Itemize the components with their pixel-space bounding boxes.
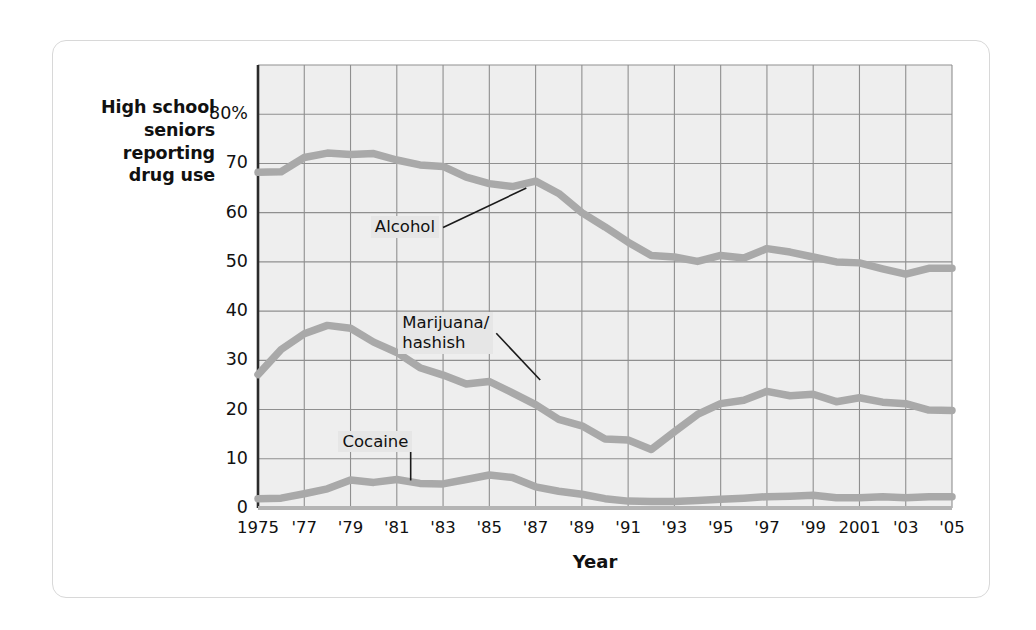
x-tick-label-2003: '03 [893, 518, 919, 537]
y-tick-label-30: 30 [190, 349, 248, 369]
x-tick-label-1995: '95 [708, 518, 734, 537]
x-tick-label-1993: '93 [662, 518, 688, 537]
x-tick-label-1979: '79 [338, 518, 364, 537]
series-label-marijuana--hashish: Marijuana/ hashish [398, 312, 493, 354]
y-tick-label-60: 60 [190, 202, 248, 222]
x-tick-label-1999: '99 [800, 518, 826, 537]
x-tick-label-2005: '05 [939, 518, 965, 537]
series-label-alcohol: Alcohol [371, 216, 439, 238]
y-tick-label-80: 80% [190, 103, 248, 123]
x-tick-label-1997: '97 [754, 518, 780, 537]
y-tick-label-70: 70 [190, 152, 248, 172]
x-tick-label-1983: '83 [430, 518, 456, 537]
chart-figure: High schoolseniorsreportingdrug use Year… [0, 0, 1036, 630]
series-label-cocaine: Cocaine [338, 431, 412, 453]
x-tick-label-1985: '85 [477, 518, 503, 537]
x-tick-label-1991: '91 [615, 518, 641, 537]
x-tick-label-1977: '77 [291, 518, 317, 537]
x-tick-label-2001: 2001 [838, 518, 880, 537]
y-tick-label-20: 20 [190, 399, 248, 419]
y-tick-label-10: 10 [190, 448, 248, 468]
y-tick-label-50: 50 [190, 251, 248, 271]
x-tick-label-1981: '81 [384, 518, 410, 537]
y-tick-label-0: 0 [190, 497, 248, 517]
x-tick-label-1989: '89 [569, 518, 595, 537]
x-tick-label-1975: 1975 [237, 518, 279, 537]
x-tick-label-1987: '87 [523, 518, 549, 537]
plot-area [0, 0, 1036, 630]
y-tick-label-40: 40 [190, 300, 248, 320]
